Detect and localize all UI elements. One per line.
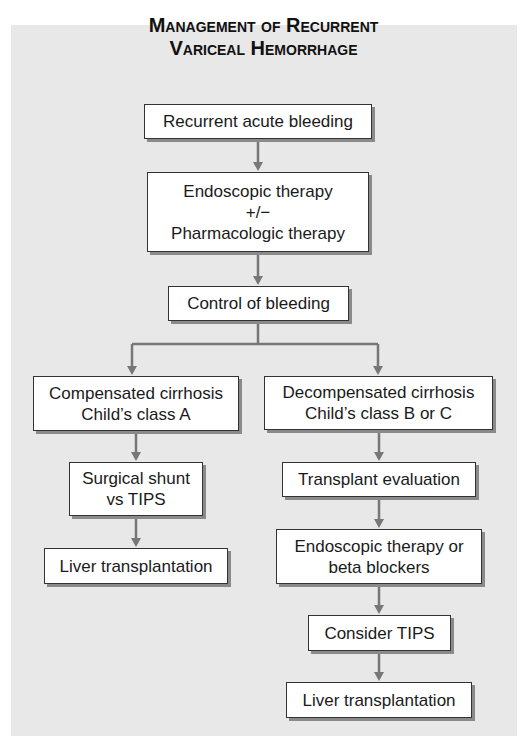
- node-initial-therapy: Endoscopic therapy +/− Pharmacologic the…: [147, 172, 369, 252]
- arrow-head-right-2: [374, 519, 384, 528]
- node-label: Pharmacologic therapy: [171, 223, 345, 244]
- arrow-head-left-1: [131, 452, 141, 461]
- node-label: Consider TIPS: [324, 623, 434, 644]
- node-label: Endoscopic therapy or: [294, 536, 463, 557]
- arrow-head-right: [373, 366, 383, 375]
- node-recurrent-bleeding: Recurrent acute bleeding: [144, 104, 372, 139]
- node-label: Surgical shunt: [82, 468, 190, 489]
- node-label: Compensated cirrhosis: [49, 383, 223, 404]
- node-compensated-cirrhosis: Compensated cirrhosis Child’s class A: [33, 376, 239, 431]
- node-transplant-evaluation: Transplant evaluation: [282, 462, 476, 497]
- node-label: Endoscopic therapy: [183, 181, 332, 202]
- node-label: Child’s class B or C: [305, 403, 452, 424]
- arrow-head-left: [127, 366, 137, 375]
- arrow-head-1: [253, 162, 263, 171]
- node-endo-or-beta-blockers: Endoscopic therapy or beta blockers: [276, 529, 482, 584]
- arrow-head-2: [253, 276, 263, 285]
- node-decompensated-cirrhosis: Decompensated cirrhosis Child’s class B …: [264, 376, 493, 430]
- node-label: Liver transplantation: [302, 690, 455, 711]
- node-label: Decompensated cirrhosis: [283, 382, 475, 403]
- node-label: beta blockers: [328, 557, 429, 578]
- arrow-head-left-2: [131, 538, 141, 547]
- node-label: Liver transplantation: [59, 556, 212, 577]
- node-control-of-bleeding: Control of bleeding: [168, 286, 349, 321]
- node-liver-transplant-right: Liver transplantation: [286, 682, 472, 718]
- node-surgical-shunt: Surgical shunt vs TIPS: [69, 462, 203, 516]
- node-label: Child’s class A: [81, 404, 190, 425]
- node-liver-transplant-left: Liver transplantation: [44, 548, 228, 584]
- node-label: Transplant evaluation: [298, 469, 460, 490]
- node-consider-tips: Consider TIPS: [308, 615, 451, 651]
- arrow-head-right-1: [374, 452, 384, 461]
- node-label: vs TIPS: [106, 489, 165, 510]
- node-label: Recurrent acute bleeding: [163, 111, 353, 132]
- node-label: +/−: [246, 202, 271, 223]
- arrow-head-right-3: [374, 605, 384, 614]
- node-label: Control of bleeding: [187, 293, 330, 314]
- arrow-head-right-4: [374, 672, 384, 681]
